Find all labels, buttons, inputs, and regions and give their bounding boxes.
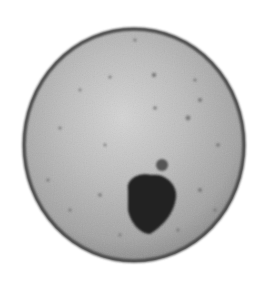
micrograph-image: Grayscale micrograph of a round cell/ooc… <box>0 0 262 281</box>
cell-body <box>0 0 262 281</box>
